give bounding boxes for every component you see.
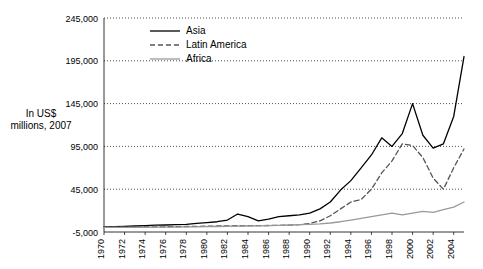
svg-text:145,000: 145,000 (65, 99, 98, 109)
svg-text:1990: 1990 (302, 239, 312, 259)
svg-text:-5,000: -5,000 (72, 228, 98, 238)
y-axis-tick-labels: -5,00045,00095,000145,000195,000245,000 (65, 14, 98, 238)
svg-text:1984: 1984 (240, 239, 250, 259)
data-series-group (104, 57, 464, 228)
svg-text:2004: 2004 (446, 239, 456, 259)
legend-item-latin-america: Latin America (150, 38, 247, 52)
svg-text:1998: 1998 (384, 239, 394, 259)
svg-text:45,000: 45,000 (70, 185, 98, 195)
legend-swatch-dashed-icon (150, 40, 180, 50)
legend-swatch-grey-icon (150, 54, 180, 64)
svg-text:1976: 1976 (158, 239, 168, 259)
chart-legend: Asia Latin America Africa (150, 24, 247, 66)
svg-text:1980: 1980 (199, 239, 209, 259)
svg-text:245,000: 245,000 (65, 14, 98, 24)
svg-text:1974: 1974 (137, 239, 147, 259)
legend-item-africa: Africa (150, 52, 247, 66)
x-axis-tick-labels: 1970197219741976197819801982198419861988… (96, 239, 456, 259)
series-line-latin-america (104, 144, 464, 227)
legend-swatch-solid-icon (150, 26, 180, 36)
svg-text:1970: 1970 (96, 239, 106, 259)
series-line-africa (104, 202, 464, 227)
svg-text:1972: 1972 (117, 239, 127, 259)
svg-text:2002: 2002 (425, 239, 435, 259)
svg-text:1994: 1994 (343, 239, 353, 259)
legend-label-africa: Africa (186, 52, 212, 66)
svg-text:95,000: 95,000 (70, 142, 98, 152)
svg-text:2000: 2000 (405, 239, 415, 259)
svg-text:1992: 1992 (322, 239, 332, 259)
legend-label-asia: Asia (186, 24, 205, 38)
legend-item-asia: Asia (150, 24, 247, 38)
svg-text:1982: 1982 (219, 239, 229, 259)
legend-label-latin-america: Latin America (186, 38, 247, 52)
chart-container: In US$ millions, 2007 -5,00045,00095,000… (0, 0, 483, 269)
svg-text:1988: 1988 (281, 239, 291, 259)
series-line-asia (104, 57, 464, 227)
svg-text:195,000: 195,000 (65, 56, 98, 66)
svg-text:1996: 1996 (363, 239, 373, 259)
svg-text:1986: 1986 (261, 239, 271, 259)
svg-text:1978: 1978 (178, 239, 188, 259)
